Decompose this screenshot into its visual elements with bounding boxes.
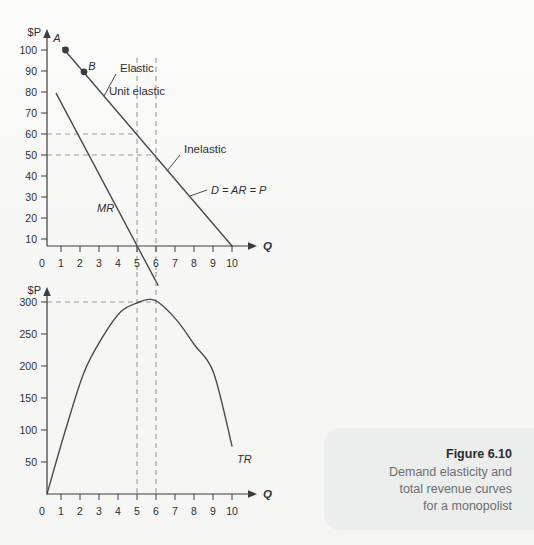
y-tick-label-300: 300 xyxy=(19,296,37,308)
guide-lines-bottom xyxy=(47,272,156,494)
x-tick-label-9: 9 xyxy=(210,257,216,269)
x-tick-label-7-tr: 7 xyxy=(172,505,178,517)
y-tick-label-60: 60 xyxy=(25,128,37,140)
total-revenue-curve xyxy=(47,299,232,494)
figure-caption: Figure 6.10 Demand elasticity and total … xyxy=(337,446,512,515)
x-tick-label-8-tr: 8 xyxy=(191,505,197,517)
y-tick-label-10: 10 xyxy=(25,233,37,245)
demand-points: A B xyxy=(52,32,95,75)
x-tick-label-1: 1 xyxy=(58,257,64,269)
chart-total-revenue: 300 250 200 150 100 50 $P xyxy=(19,272,272,517)
point-a-marker xyxy=(62,47,69,54)
x-axis-arrow-bottom xyxy=(248,490,257,498)
x-axis-top: 0 1 2 3 4 5 6 7 8 9 10 Q xyxy=(39,240,272,269)
x-tick-label-5-tr: 5 xyxy=(134,505,140,517)
y-axis-top: 100 90 80 70 60 50 40 30 20 10 $P xyxy=(19,26,50,246)
x-tick-label-0-tr: 0 xyxy=(39,505,45,517)
x-tick-label-6-tr: 6 xyxy=(153,505,159,517)
annotation-elastic: Elastic xyxy=(120,62,154,74)
y-axis-bottom: 300 250 200 150 100 50 $P xyxy=(19,284,50,494)
x-tick-label-8: 8 xyxy=(191,257,197,269)
x-tick-label-7: 7 xyxy=(172,257,178,269)
annotation-tr: TR xyxy=(237,453,252,465)
x-axis-arrow-top xyxy=(248,242,257,250)
y-tick-label-40: 40 xyxy=(25,170,37,182)
x-axis-title-bottom: Q xyxy=(263,488,272,500)
y-tick-label-30: 30 xyxy=(25,191,37,203)
x-axis-title-top: Q xyxy=(263,240,272,252)
x-tick-label-2-tr: 2 xyxy=(77,505,83,517)
figure-page: 100 90 80 70 60 50 40 30 20 10 $P xyxy=(0,0,534,545)
x-tick-label-6: 6 xyxy=(153,257,159,269)
point-a-label: A xyxy=(52,32,60,44)
figure-number: Figure 6.10 xyxy=(337,446,512,463)
y-axis-arrow-top xyxy=(43,29,51,38)
x-tick-label-3: 3 xyxy=(96,257,102,269)
d-ar-p-leader xyxy=(190,190,207,196)
caption-line-3: for a monopolist xyxy=(337,498,512,515)
inelastic-leader xyxy=(167,155,180,171)
x-tick-label-0: 0 xyxy=(39,257,45,269)
y-tick-label-100: 100 xyxy=(19,424,37,436)
y-tick-label-250: 250 xyxy=(19,328,37,340)
annotation-d-ar-p: D = AR = P xyxy=(211,184,267,196)
x-tick-label-4-tr: 4 xyxy=(115,505,121,517)
chart-demand-marginal-revenue: 100 90 80 70 60 50 40 30 20 10 $P xyxy=(19,26,272,285)
y-axis-title-bottom: $P xyxy=(28,284,41,296)
y-tick-label-70: 70 xyxy=(25,107,37,119)
x-tick-label-10-tr: 10 xyxy=(226,505,238,517)
y-axis-title-top: $P xyxy=(28,26,41,38)
annotation-mr: MR xyxy=(97,202,114,214)
y-tick-label-90: 90 xyxy=(25,65,37,77)
y-tick-label-80: 80 xyxy=(25,86,37,98)
x-tick-label-10: 10 xyxy=(226,257,238,269)
y-axis-arrow-bottom xyxy=(43,287,51,296)
point-b-marker xyxy=(81,68,88,75)
x-tick-label-3-tr: 3 xyxy=(96,505,102,517)
x-tick-label-5: 5 xyxy=(134,257,140,269)
y-tick-label-50: 50 xyxy=(25,149,37,161)
annotation-inelastic: Inelastic xyxy=(184,143,226,155)
y-tick-label-150: 150 xyxy=(19,392,37,404)
x-tick-label-9-tr: 9 xyxy=(210,505,216,517)
caption-line-1: Demand elasticity and xyxy=(337,464,512,481)
x-tick-label-1-tr: 1 xyxy=(58,505,64,517)
point-b-label: B xyxy=(88,60,95,72)
x-tick-label-2: 2 xyxy=(77,257,83,269)
caption-line-2: total revenue curves xyxy=(337,481,512,498)
annotation-unit-elastic: Unit elastic xyxy=(109,85,165,97)
y-tick-label-100: 100 xyxy=(19,44,37,56)
annotations-top: Elastic Unit elastic Inelastic D = AR = … xyxy=(97,62,267,214)
marginal-revenue-curve xyxy=(56,94,158,286)
x-tick-label-4: 4 xyxy=(115,257,121,269)
y-tick-label-20: 20 xyxy=(25,212,37,224)
y-tick-label-200: 200 xyxy=(19,360,37,372)
y-tick-label-50: 50 xyxy=(25,456,37,468)
